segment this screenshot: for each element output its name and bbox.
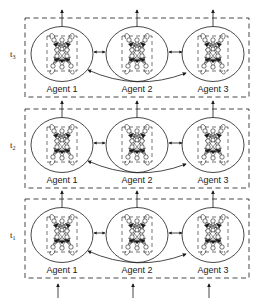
agent-1: Agent 1 (31, 191, 93, 275)
agent-1: Agent 1 (31, 101, 93, 185)
agent-label: Agent 3 (197, 84, 228, 94)
agent-ellipse (182, 118, 244, 173)
agent-3: Agent 3 (182, 101, 244, 185)
agent-label: Agent 1 (46, 265, 77, 275)
time-step-label: t2 (10, 140, 16, 151)
agent-1: Agent 1 (31, 10, 93, 94)
time-step-label: t3 (10, 49, 16, 60)
agent-label: Agent 1 (46, 175, 77, 185)
agent-ellipse (31, 208, 93, 263)
agent-label: Agent 1 (46, 84, 77, 94)
time-step-t1: t1Agent 1Agent 2Agent 3 (10, 191, 249, 278)
agent-ellipse (106, 118, 168, 173)
agent-label: Agent 2 (121, 265, 152, 275)
time-step-label: t1 (10, 230, 16, 241)
agent-ellipse (182, 208, 244, 263)
agent-label: Agent 3 (197, 265, 228, 275)
agent-ellipse (106, 27, 168, 82)
agent-label: Agent 3 (197, 175, 228, 185)
agent-ellipse (31, 27, 93, 82)
agent-ellipse (182, 27, 244, 82)
agent-ellipse (31, 118, 93, 173)
agents-diagram: t3Agent 1Agent 2Agent 3t2Agent 1Agent 2A… (0, 0, 259, 307)
time-step-t3: t3Agent 1Agent 2Agent 3 (10, 10, 249, 97)
diagram-canvas: t3Agent 1Agent 2Agent 3t2Agent 1Agent 2A… (0, 0, 259, 307)
agent-3: Agent 3 (182, 10, 244, 94)
time-step-t2: t2Agent 1Agent 2Agent 3 (10, 101, 249, 188)
agent-label: Agent 2 (121, 84, 152, 94)
agent-ellipse (106, 208, 168, 263)
agent-label: Agent 2 (121, 175, 152, 185)
agent-3: Agent 3 (182, 191, 244, 275)
